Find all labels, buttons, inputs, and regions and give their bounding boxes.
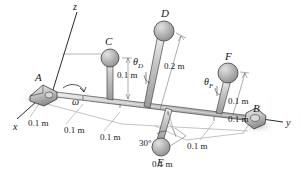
dim-D-to-E-label: 0.1 m <box>100 133 121 142</box>
angle-30-label: 30° <box>139 139 152 148</box>
dim-E-to-F-label: 0.1 m <box>187 142 208 151</box>
angle-arc-theta-F <box>215 86 220 96</box>
dim-A-to-C-label: 0.1 m <box>28 119 49 128</box>
engineering-figure: x y z A B C D E F θD θF ω 30° 0.1 m 0.2 … <box>0 0 301 173</box>
bearing-B-label: B <box>253 103 260 114</box>
theta-F-label: θF <box>204 77 213 90</box>
x-axis-label: x <box>13 122 17 132</box>
e-vertical-reference <box>168 112 176 137</box>
sphere-F-label: F <box>225 51 232 62</box>
sphere-F <box>218 63 238 83</box>
theta-F-subscript: F <box>209 82 213 90</box>
theta-D-subscript: D <box>138 62 143 70</box>
sphere-D <box>154 21 174 41</box>
z-axis-label: z <box>73 2 77 12</box>
dim-F-to-B-label: 0.1 m <box>228 115 249 124</box>
sphere-C <box>101 49 119 67</box>
sphere-E <box>152 138 170 156</box>
rod-E <box>157 108 172 142</box>
omega-label: ω <box>72 97 79 107</box>
y-axis-label: y <box>286 118 290 128</box>
omega-arrow <box>63 85 86 92</box>
dim-D-length-label: 0.2 m <box>164 62 185 71</box>
dim-C-height-label: 0.1 m <box>117 71 138 80</box>
dim-C-to-D-label: 0.1 m <box>64 126 85 135</box>
z-axis <box>52 12 77 93</box>
sphere-D-label: D <box>161 8 169 19</box>
sphere-C-label: C <box>105 36 112 47</box>
theta-D-label: θD <box>133 57 143 70</box>
rod-D <box>144 34 165 108</box>
dim-F-height-label: 0.1 m <box>228 97 249 106</box>
bearing-A-label: A <box>35 72 42 83</box>
omega-symbol: ω <box>72 96 79 107</box>
dim-E-length-label: 0.1 m <box>152 160 173 169</box>
